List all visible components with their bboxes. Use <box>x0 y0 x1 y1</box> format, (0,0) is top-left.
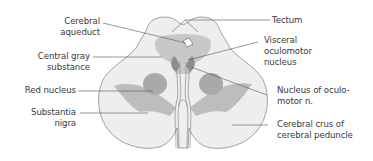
label-cerebral-crus: Cerebral crus of cerebral peduncle <box>277 119 369 141</box>
label-substantia-nigra: Substantia nigra <box>12 107 76 129</box>
label-tectum: Tectum <box>272 15 352 26</box>
label-cerebral-aqueduct: Cerebral aqueduct <box>52 16 100 38</box>
red-nucleus-left <box>143 73 167 95</box>
red-nucleus-right <box>199 73 223 95</box>
label-nucleus-of-oculomotor-n: Nucleus of oculo- motor n. <box>277 85 367 107</box>
label-red-nucleus: Red nucleus <box>12 85 76 96</box>
label-visceral-oculomotor-nucleus: Visceral oculomotor nucleus <box>264 35 344 68</box>
label-central-gray-substance: Central gray substance <box>26 51 90 73</box>
